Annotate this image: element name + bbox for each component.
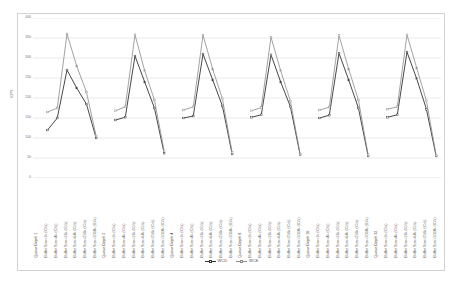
x-category-label: Buffer Size=4k (IO/s) — [191, 224, 195, 258]
y-tick-350: 350 — [25, 36, 31, 40]
x-category-label: Buffer Size=1k (IO/s) — [45, 224, 49, 258]
data-point-marker — [115, 110, 117, 112]
x-category-label: Buffer Size=1024k (IO/s) — [162, 218, 166, 258]
data-point-marker — [144, 70, 146, 72]
data-point-marker — [134, 55, 136, 57]
data-point-marker — [95, 137, 97, 139]
y-tick-300: 300 — [25, 56, 31, 60]
series-line-wce-group-5 — [388, 35, 437, 155]
x-category-label: Buffer Size=64k (IO/s) — [211, 222, 215, 258]
x-category-label: Buffer Size=1k (IO/s) — [181, 224, 185, 258]
data-point-marker — [124, 106, 126, 108]
y-axis-title: IOPS — [10, 90, 14, 98]
x-category-label: Buffer Size=4k (IO/s) — [327, 224, 331, 258]
data-point-marker — [86, 91, 88, 93]
data-point-marker — [260, 107, 262, 109]
data-point-marker — [338, 52, 340, 54]
y-tick-50: 50 — [27, 156, 31, 160]
x-category-label: Buffer Size=64k (IO/s) — [347, 222, 351, 258]
data-point-marker — [76, 87, 78, 89]
data-point-marker — [124, 116, 126, 118]
data-point-marker — [154, 99, 156, 101]
data-point-marker — [192, 115, 194, 117]
x-category-label: Buffer Size=1024k (IO/s) — [230, 218, 234, 258]
data-point-marker — [280, 70, 282, 72]
data-point-marker — [426, 100, 428, 102]
data-point-marker — [299, 153, 301, 155]
data-point-marker — [338, 35, 340, 37]
series-line-wcd-group-5 — [388, 52, 437, 156]
legend-label: WCE — [249, 259, 258, 263]
data-point-marker — [163, 152, 165, 154]
data-point-marker — [86, 103, 88, 105]
data-point-marker — [231, 152, 233, 154]
legend-item-wce[interactable]: WCE — [236, 259, 258, 263]
x-category-label: Buffer Size=64k (IO/s) — [75, 222, 79, 258]
x-group-label-2: Queue Depth 4 — [172, 233, 176, 258]
x-category-label: Buffer Size=256k (IO/s) — [152, 220, 156, 258]
data-point-marker — [222, 105, 224, 107]
x-category-label: Buffer Size=1024k (IO/s) — [298, 218, 302, 258]
data-point-marker — [260, 114, 262, 116]
y-tick-200: 200 — [25, 96, 31, 100]
data-point-marker — [47, 129, 49, 131]
x-category-label: Buffer Size=16k (IO/s) — [337, 222, 341, 258]
data-point-marker — [396, 114, 398, 116]
data-point-marker — [328, 106, 330, 108]
data-point-marker — [183, 117, 185, 119]
series-line-wcd-group-4 — [320, 53, 369, 156]
x-category-label: Buffer Size=1024k (IO/s) — [94, 218, 98, 258]
legend-item-wcd[interactable]: WCD — [205, 259, 228, 263]
x-group-label-0: Queue Depth 1 — [36, 233, 40, 258]
data-point-marker — [406, 34, 408, 36]
chart-legend: WCDWCE — [0, 259, 463, 263]
data-point-marker — [192, 106, 194, 108]
x-group-label-1: Queue Depth 2 — [104, 233, 108, 258]
x-category-label: Buffer Size=1k (IO/s) — [385, 224, 389, 258]
y-tick-150: 150 — [25, 116, 31, 120]
plot-svg — [33, 18, 441, 178]
data-point-marker — [212, 79, 214, 81]
x-category-label: Buffer Size=1k (IO/s) — [113, 224, 117, 258]
data-point-marker — [280, 81, 282, 83]
legend-label: WCD — [218, 259, 228, 263]
x-category-label: Buffer Size=16k (IO/s) — [201, 222, 205, 258]
x-category-label: Buffer Size=64k (IO/s) — [143, 222, 147, 258]
data-point-marker — [270, 54, 272, 56]
x-category-label: Buffer Size=4k (IO/s) — [123, 224, 127, 258]
x-category-label: Buffer Size=256k (IO/s) — [288, 220, 292, 258]
data-point-marker — [76, 65, 78, 67]
x-category-label: Buffer Size=256k (IO/s) — [424, 220, 428, 258]
data-point-marker — [319, 109, 321, 111]
x-category-label: Buffer Size=256k (IO/s) — [356, 220, 360, 258]
data-point-marker — [66, 69, 68, 71]
legend-swatch-wce-icon — [236, 261, 247, 262]
x-category-label: Buffer Size=64k (IO/s) — [279, 222, 283, 258]
x-category-label: Buffer Size=16k (IO/s) — [269, 222, 273, 258]
iops-line-chart: IOPS 050100150200250300350400 Queue Dept… — [0, 0, 463, 283]
x-category-label: Buffer Size=16k (IO/s) — [133, 222, 137, 258]
x-category-label: Buffer Size=1024k (IO/s) — [366, 218, 370, 258]
y-axis-tick-labels: 050100150200250300350400 — [17, 18, 33, 178]
x-group-label-4: Queue Depth 16 — [308, 231, 312, 258]
data-point-marker — [183, 109, 185, 111]
series-line-wcd-group-1 — [116, 56, 165, 153]
x-category-label: Buffer Size=1k (IO/s) — [249, 224, 253, 258]
data-point-marker — [270, 36, 272, 38]
series-line-wcd-group-3 — [252, 55, 301, 155]
data-point-marker — [212, 68, 214, 70]
x-group-label-3: Queue Depth 8 — [240, 233, 244, 258]
data-point-marker — [435, 154, 437, 156]
x-category-label: Buffer Size=64k (IO/s) — [415, 222, 419, 258]
data-point-marker — [290, 100, 292, 102]
data-point-marker — [367, 154, 369, 156]
data-point-marker — [328, 114, 330, 116]
x-category-label: Buffer Size=4k (IO/s) — [259, 224, 263, 258]
data-point-marker — [95, 135, 97, 137]
data-point-marker — [251, 110, 253, 112]
legend-swatch-wcd-icon — [205, 261, 216, 262]
series-line-wce-group-4 — [320, 36, 369, 155]
data-point-marker — [163, 150, 165, 152]
x-category-label: Buffer Size=16k (IO/s) — [65, 222, 69, 258]
data-point-marker — [202, 34, 204, 36]
